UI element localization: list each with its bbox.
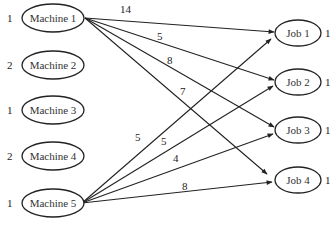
demand-job-3: 1 [325, 124, 331, 136]
edge-machine1-job2 [85, 18, 274, 80]
node-machine-4: 2 Machine 4 [7, 142, 84, 170]
edges-machine-5 [82, 39, 273, 203]
machine-4-label: Machine 4 [30, 150, 77, 162]
edge-machine1-job4 [85, 18, 267, 174]
supply-machine-5: 1 [7, 197, 13, 209]
edge-weight-m5-j4: 8 [182, 180, 188, 192]
node-job-1: Job 1 1 [275, 20, 331, 46]
job-4-label: Job 4 [286, 174, 310, 186]
supply-machine-2: 2 [7, 59, 13, 71]
edge-machine1-job1 [85, 18, 274, 32]
edge-weight-m1-j2: 5 [157, 30, 163, 42]
machine-5-label: Machine 5 [30, 197, 77, 209]
machine-3-label: Machine 3 [30, 104, 77, 116]
node-machine-1: 1 Machine 1 [7, 4, 84, 32]
edge-weight-m1-j3: 8 [167, 54, 173, 66]
machine-2-label: Machine 2 [30, 59, 77, 71]
node-machine-3: 1 Machine 3 [7, 96, 84, 124]
assignment-network-diagram: 14 5 8 7 5 5 4 8 1 Machine 1 2 Machine 2… [0, 0, 334, 227]
node-machine-2: 2 Machine 2 [7, 51, 84, 79]
demand-job-2: 1 [325, 76, 331, 88]
supply-machine-3: 1 [7, 104, 13, 116]
node-job-4: Job 4 1 [275, 167, 331, 193]
edge-weight-m1-j1: 14 [120, 3, 132, 15]
machine-1-label: Machine 1 [30, 12, 77, 24]
edge-machine5-job1 [82, 39, 271, 203]
edge-weight-m1-j4: 7 [180, 85, 186, 97]
job-nodes: Job 1 1 Job 2 1 Job 3 1 Job 4 1 [275, 20, 331, 193]
machine-nodes: 1 Machine 1 2 Machine 2 1 Machine 3 2 Ma… [7, 4, 84, 217]
job-1-label: Job 1 [286, 27, 310, 39]
demand-job-1: 1 [325, 27, 331, 39]
demand-job-4: 1 [325, 174, 331, 186]
edge-weight-m5-j2: 5 [161, 135, 167, 147]
node-job-2: Job 2 1 [275, 69, 331, 95]
edge-weight-m5-j1: 5 [135, 131, 141, 143]
edge-machine1-job3 [85, 18, 274, 127]
supply-machine-4: 2 [7, 150, 13, 162]
job-3-label: Job 3 [286, 124, 310, 136]
supply-machine-1: 1 [7, 12, 13, 24]
node-job-3: Job 3 1 [275, 117, 331, 143]
node-machine-5: 1 Machine 5 [7, 189, 84, 217]
edge-weight-m5-j3: 4 [173, 152, 179, 164]
job-2-label: Job 2 [286, 76, 310, 88]
